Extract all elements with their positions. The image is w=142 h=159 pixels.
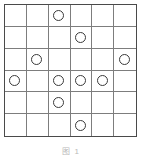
grid-cell[interactable] (114, 5, 136, 27)
figure-container: 图 1 (0, 0, 142, 159)
grid-cell[interactable] (92, 49, 114, 71)
circle-marker (53, 97, 64, 108)
grid-cell[interactable] (71, 5, 93, 27)
circle-marker (31, 54, 42, 65)
grid-cell[interactable] (114, 114, 136, 136)
grid-cell[interactable] (71, 114, 93, 136)
grid-cell[interactable] (27, 27, 49, 49)
grid-cell[interactable] (5, 71, 27, 93)
circle-marker (75, 32, 86, 43)
grid-cell[interactable] (71, 92, 93, 114)
grid-cell[interactable] (5, 49, 27, 71)
grid-cell[interactable] (71, 49, 93, 71)
figure-caption: 图 1 (0, 147, 142, 157)
grid-cell[interactable] (92, 5, 114, 27)
circle-marker (75, 120, 86, 131)
grid-cell[interactable] (5, 92, 27, 114)
grid-cell[interactable] (114, 27, 136, 49)
circle-marker (97, 75, 108, 86)
grid-cell[interactable] (71, 71, 93, 93)
grid-cell[interactable] (114, 49, 136, 71)
grid-cell[interactable] (5, 27, 27, 49)
grid-cell[interactable] (49, 114, 71, 136)
grid-cell[interactable] (114, 71, 136, 93)
circle-marker (9, 75, 20, 86)
grid-cell[interactable] (71, 27, 93, 49)
grid-cell[interactable] (27, 71, 49, 93)
circle-marker (119, 54, 130, 65)
puzzle-grid[interactable] (4, 4, 137, 137)
circle-marker (53, 10, 64, 21)
grid-cell[interactable] (5, 5, 27, 27)
grid-cell[interactable] (27, 5, 49, 27)
grid-cell[interactable] (49, 71, 71, 93)
grid-cell[interactable] (27, 114, 49, 136)
grid-cell[interactable] (49, 5, 71, 27)
grid-cell[interactable] (92, 27, 114, 49)
circle-marker (75, 75, 86, 86)
grid-cell[interactable] (92, 92, 114, 114)
grid-cell[interactable] (49, 27, 71, 49)
grid-cell[interactable] (27, 49, 49, 71)
circle-marker (53, 75, 64, 86)
grid-cell[interactable] (49, 49, 71, 71)
grid-cell[interactable] (27, 92, 49, 114)
grid-cell[interactable] (92, 114, 114, 136)
grid-cell[interactable] (114, 92, 136, 114)
grid-cell[interactable] (49, 92, 71, 114)
grid-cell[interactable] (92, 71, 114, 93)
grid-cell[interactable] (5, 114, 27, 136)
